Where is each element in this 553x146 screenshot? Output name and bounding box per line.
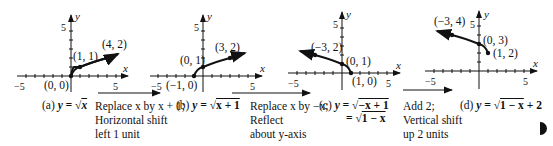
x-tick-5-d: 5 <box>523 75 528 88</box>
x-tick-5-b: 5 <box>250 80 255 93</box>
point-label-a-0: (0, 0) <box>44 79 69 92</box>
transform-step-2: Replace x by −x; Reflect about y-axis <box>250 99 328 141</box>
caption-a: (a) y = √x <box>42 99 87 112</box>
y-tick-5-c: 5 <box>333 18 338 31</box>
y-axis-label-d: y <box>484 8 489 21</box>
transform-step-3: Add 2; Vertical shift up 2 units <box>403 99 462 141</box>
caption-d: (d) y = √1 − x + 2 <box>460 99 542 112</box>
point-label-c-1: (0, 1) <box>346 55 371 68</box>
x-tick-neg5-a: −5 <box>14 80 25 93</box>
transform-step-1: Replace x by x + 1; Horizontal shift lef… <box>95 99 185 141</box>
x-tick-5-c: 5 <box>386 77 391 90</box>
point-label-a-1: (1, 1) <box>73 50 98 63</box>
y-axis-label-b: y <box>207 10 212 23</box>
point-label-a-2: (4, 2) <box>102 38 127 51</box>
point-label-d-2: (1, 2) <box>493 47 518 60</box>
y-tick-5-d: 5 <box>470 18 475 31</box>
point-label-d-0: (−3, 4) <box>434 15 465 28</box>
x-axis-label-a: x <box>123 62 128 75</box>
x-tick-neg5-b: −5 <box>151 80 162 93</box>
x-axis-label-d: x <box>533 57 538 70</box>
point-label-c-0: (−3, 2) <box>311 41 342 54</box>
x-tick-neg5-c: −5 <box>288 77 299 90</box>
point-label-b-0: (−1, 0) <box>166 79 197 92</box>
point-label-d-1: (0, 3) <box>483 34 508 47</box>
y-tick-5-b: 5 <box>194 21 199 34</box>
y-tick-5-a: 5 <box>61 21 66 34</box>
point-label-b-2: (3, 2) <box>215 41 240 54</box>
y-axis-label-c: y <box>346 8 351 21</box>
x-axis-label-b: x <box>260 62 265 75</box>
x-tick-neg5-d: −5 <box>425 75 436 88</box>
graph-c <box>288 12 400 90</box>
caption-c-line2: = √1 − x <box>346 112 386 125</box>
x-tick-5-a: 5 <box>113 80 118 93</box>
y-axis-label-a: y <box>75 10 80 23</box>
caption-b: (b) y = √x + 1 <box>176 99 240 112</box>
point-label-c-2: (1, 0) <box>352 75 377 88</box>
point-label-b-1: (0, 1) <box>180 54 205 67</box>
caption-c: (c) y = √−x + 1 <box>319 99 389 112</box>
x-axis-label-c: x <box>396 59 401 72</box>
